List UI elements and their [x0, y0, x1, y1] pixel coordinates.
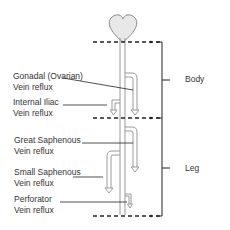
great-saphenous-branch: [125, 127, 139, 172]
section-label-leg: Leg: [185, 163, 199, 174]
label-internal-iliac: Internal Iliac Vein reflux: [13, 97, 59, 119]
label-gonadal: Gonadal (Ovarian) Vein reflux: [13, 71, 83, 93]
section-dividers: [93, 42, 160, 216]
small-saphenous-branch: [105, 151, 120, 193]
internal-iliac-branch: [110, 100, 120, 115]
leg-bracket: [156, 118, 170, 216]
label-perforator: Perforator Vein reflux: [14, 194, 54, 216]
perforator-branch: [125, 194, 133, 208]
label-small-saphenous: Small Saphenous Vein reflux: [14, 167, 81, 189]
heart-icon: [109, 15, 136, 42]
label-great-saphenous: Great Saphenous Vein reflux: [14, 135, 81, 157]
gonadal-branch: [125, 73, 139, 115]
body-bracket: [156, 42, 170, 118]
main-vein: [120, 38, 125, 215]
section-label-body: Body: [185, 74, 204, 85]
